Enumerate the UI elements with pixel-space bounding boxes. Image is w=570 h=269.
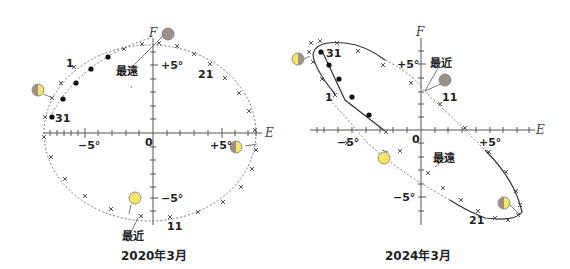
x-tick-neg5: −5° bbox=[337, 137, 359, 148]
axes bbox=[310, 38, 535, 225]
moon-icons bbox=[292, 53, 510, 209]
moon-first-quarter-icon bbox=[32, 84, 44, 96]
moon-new-icon bbox=[439, 74, 451, 86]
date-label-11: 11 bbox=[167, 221, 182, 232]
date-markers bbox=[42, 41, 258, 219]
annotation-nearest: 最近 bbox=[122, 231, 144, 242]
moon-full-icon bbox=[378, 152, 390, 164]
x-tick-neg5: −5° bbox=[78, 140, 100, 151]
moon-full-icon bbox=[129, 192, 141, 204]
caption-2024: 2024年3月 bbox=[385, 250, 451, 262]
moon-first-quarter-icon bbox=[292, 53, 304, 65]
y-tick-pos5: +5° bbox=[397, 59, 419, 70]
date-label-1: 1 bbox=[66, 58, 74, 69]
position-dots bbox=[49, 54, 110, 119]
annotation-farthest: 最遠 bbox=[116, 66, 138, 77]
y-tick-neg5: −5° bbox=[393, 192, 415, 203]
x-tick-pos5: +5° bbox=[210, 140, 232, 151]
diagram-2020: F E 0 −5° +5° +5° −5° 最遠 最近 1 21 31 11 2… bbox=[0, 0, 285, 269]
moon-new-icon bbox=[162, 28, 174, 40]
origin-label: 0 bbox=[412, 134, 420, 145]
date-label-11: 11 bbox=[442, 92, 457, 103]
orbit-solid-bottom bbox=[450, 150, 522, 219]
date-label-31: 31 bbox=[55, 113, 70, 124]
orbit-solid-top bbox=[313, 43, 385, 95]
axes bbox=[43, 38, 262, 225]
date-label-1: 1 bbox=[325, 92, 333, 103]
orbit-plot-2024 bbox=[285, 0, 570, 269]
axis-label-e: E bbox=[265, 127, 274, 139]
origin-label: 0 bbox=[145, 137, 153, 148]
diagram-2024: F E 0 −5° +5° +5° −5° 最近 最遠 31 1 11 21 2… bbox=[285, 0, 570, 269]
x-tick-pos5: +5° bbox=[479, 137, 501, 148]
axis-label-f: F bbox=[149, 27, 157, 39]
annotation-nearest: 最近 bbox=[430, 58, 452, 69]
date-label-21: 21 bbox=[198, 69, 213, 80]
date-label-31: 31 bbox=[326, 48, 341, 59]
y-tick-neg5: −5° bbox=[161, 193, 183, 204]
date-label-21: 21 bbox=[469, 215, 484, 226]
annotation-farthest: 最遠 bbox=[433, 153, 455, 164]
axis-label-e: E bbox=[536, 124, 545, 136]
y-tick-pos5: +5° bbox=[161, 60, 183, 71]
moon-last-quarter-icon bbox=[498, 197, 510, 209]
axis-label-f: F bbox=[416, 26, 424, 38]
orbit-plot-2020 bbox=[0, 0, 285, 269]
caption-2020: 2020年3月 bbox=[121, 250, 187, 262]
